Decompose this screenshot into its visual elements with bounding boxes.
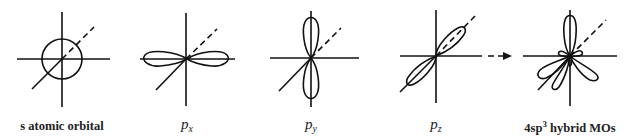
axis-diagonal-back <box>186 29 217 59</box>
label-s-orbital: s atomic orbital <box>20 119 103 134</box>
transform-arrow <box>488 52 512 60</box>
label-subscript: x <box>189 123 193 134</box>
label-text: s atomic orbital <box>20 119 103 133</box>
px-orbital-diagram <box>140 13 235 106</box>
label-pz: pz <box>430 116 441 134</box>
arrow-head <box>503 52 512 60</box>
axis-diagonal-back <box>62 27 94 59</box>
axis-diagonal-front <box>156 59 186 90</box>
label-text: 4sp <box>524 121 542 135</box>
label-subscript: z <box>438 123 442 134</box>
axis-diagonal-back <box>436 16 475 56</box>
label-text: p <box>430 116 438 132</box>
axis-diagonal-back <box>311 28 341 58</box>
sp3-lobe-bottom-right <box>570 56 598 81</box>
label-px: px <box>181 116 193 134</box>
sp3-hybrid-diagram <box>523 10 617 106</box>
label-subscript: y <box>313 123 317 134</box>
s-orbital-diagram <box>17 12 110 107</box>
py-orbital-diagram <box>270 11 359 107</box>
axis-diagonal-front <box>279 58 311 91</box>
label-text-suffix: hybrid MOs <box>547 121 616 135</box>
label-sp3-hybrid: 4sp3 hybrid MOs <box>524 119 615 136</box>
pz-orbital-diagram <box>400 10 482 103</box>
axis-diagonal-front <box>32 59 62 89</box>
label-text: p <box>305 116 313 132</box>
label-text: p <box>181 116 189 132</box>
label-py: py <box>305 116 317 134</box>
axis-diagonal-front <box>400 56 436 92</box>
